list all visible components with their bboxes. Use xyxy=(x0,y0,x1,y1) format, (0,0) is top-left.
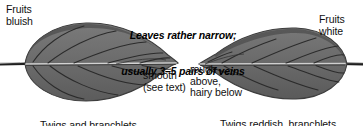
figure-title-line1: Leaves rather narrow; xyxy=(98,29,268,41)
leaf-comparison-figure: Leaves rather narrow; usually 3–5 pairs … xyxy=(0,0,363,126)
right-leaf-caption: Twigs reddish, branchlets brown or gray,… xyxy=(209,107,336,126)
left-leaf-caption: Twigs and branchlets dull, sparsely hair… xyxy=(29,108,137,126)
right-leaf-caption-line1: Twigs reddish, branchlets xyxy=(220,118,336,127)
left-leaf-surface-label: smooth (see text) xyxy=(143,70,186,93)
right-leaf-fruits-label: Fruits white xyxy=(319,14,345,37)
left-leaf-caption-line1: Twigs and branchlets xyxy=(40,119,137,127)
left-leaf-fruits-label: Fruits bluish xyxy=(6,4,33,27)
right-leaf-surface-label: rough above, hairy below xyxy=(190,64,242,99)
